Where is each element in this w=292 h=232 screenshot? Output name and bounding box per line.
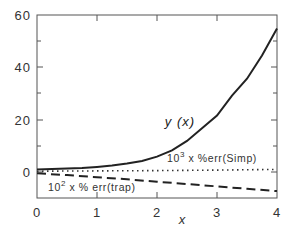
x-tick-label-3: 3 — [213, 205, 221, 220]
x-tick-label-1: 1 — [93, 205, 101, 220]
y-tick-label-0: 0 — [23, 165, 31, 180]
series-simp-error — [37, 169, 277, 171]
x-tick-label-0: 0 — [33, 205, 41, 220]
chart: 60 40 20 0 0 1 2 3 4 x y (x) 103 x %err(… — [0, 0, 292, 232]
svg-text:102 x % err(trap): 102 x % err(trap) — [48, 179, 136, 193]
annotation-y-curve: y (x) — [164, 114, 195, 129]
annotation-trap-error: 102 x % err(trap) — [48, 179, 136, 193]
y-tick-label-40: 40 — [15, 60, 31, 75]
x-tick-label-2: 2 — [153, 205, 161, 220]
x-axis-label: x — [178, 212, 186, 227]
x-tick-label-4: 4 — [273, 205, 281, 220]
series-y-curve-path — [37, 29, 277, 170]
y-tick-label-20: 20 — [15, 113, 31, 128]
svg-text:103 x %err(Simp): 103 x %err(Simp) — [167, 150, 257, 164]
y-tick-label-60: 60 — [15, 8, 31, 23]
annotation-simp-error: 103 x %err(Simp) — [167, 150, 257, 164]
